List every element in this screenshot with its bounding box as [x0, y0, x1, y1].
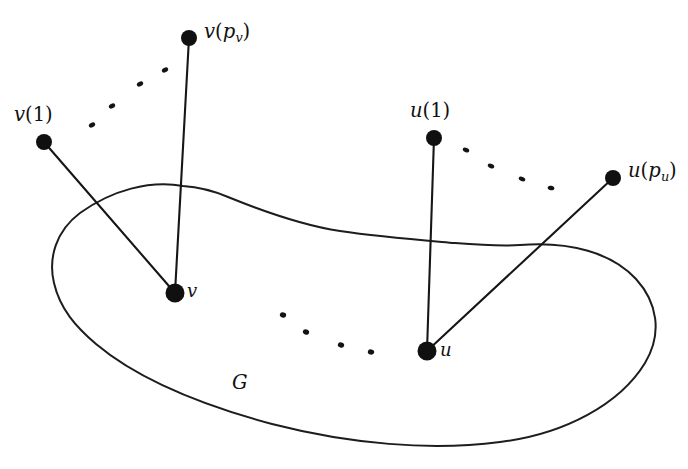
- vertex-node-v1[interactable]: [36, 134, 52, 150]
- ellipsis-dot-u-3: [518, 176, 526, 182]
- label-v-last-var: v: [204, 20, 215, 43]
- label-v-first-index: 1: [33, 103, 45, 126]
- label-v-first-open: (: [25, 103, 33, 126]
- vertex-node-v[interactable]: [166, 284, 185, 303]
- vertex-node-upu[interactable]: [605, 170, 621, 186]
- ellipsis-dot-inner-1: [279, 312, 287, 319]
- vertex-node-u1[interactable]: [426, 130, 442, 146]
- figure-canvas: v(1) v(pv) u(1) u(pu) v u G: [0, 0, 688, 469]
- label-u-first-var: u: [410, 99, 423, 122]
- label-u-first: u(1): [410, 101, 450, 121]
- label-u-last-var: u: [628, 159, 641, 182]
- label-u-first-index: 1: [430, 99, 442, 122]
- ellipsis-dot-u-1: [462, 147, 470, 154]
- edge-v1-v: [44, 142, 175, 293]
- ellipsis-dot-inner-2: [302, 328, 310, 335]
- ellipsis-dot-v-4: [161, 66, 169, 73]
- label-vertex-u: u: [440, 341, 452, 359]
- label-v-last: v(pv): [204, 22, 250, 42]
- label-v-last-sub: v: [235, 30, 242, 45]
- graph-diagram-svg: [0, 0, 688, 469]
- label-v-last-close: ): [242, 20, 250, 43]
- label-u-last: u(pu): [628, 161, 677, 181]
- label-v-last-p: p: [223, 20, 235, 43]
- label-v-first-close: ): [45, 103, 53, 126]
- vertex-node-vpv[interactable]: [181, 30, 197, 46]
- label-region-g: G: [232, 373, 248, 393]
- ellipsis-dot-v-3: [136, 80, 144, 87]
- label-u-last-p: p: [648, 159, 660, 182]
- vertex-node-u[interactable]: [418, 342, 437, 361]
- label-v-last-open: (: [215, 20, 223, 43]
- label-u-last-close: ): [669, 159, 677, 182]
- label-v-first: v(1): [14, 105, 53, 125]
- ellipsis-dot-inner-3: [337, 342, 344, 349]
- label-u-last-sub: u: [661, 169, 669, 184]
- ellipsis-dot-u-2: [487, 163, 495, 170]
- ellipsis-dot-v-2: [108, 102, 116, 109]
- edge-upu-u: [427, 178, 613, 351]
- ellipsis-dot-v-1: [88, 121, 96, 128]
- label-v-first-var: v: [14, 103, 25, 126]
- edge-u1-u: [427, 138, 434, 351]
- label-vertex-v: v: [187, 282, 197, 300]
- edge-vpv-v: [175, 38, 189, 293]
- ellipsis-dot-u-4: [547, 185, 555, 191]
- label-u-first-close: ): [443, 99, 451, 122]
- ellipsis-dot-inner-4: [367, 349, 374, 355]
